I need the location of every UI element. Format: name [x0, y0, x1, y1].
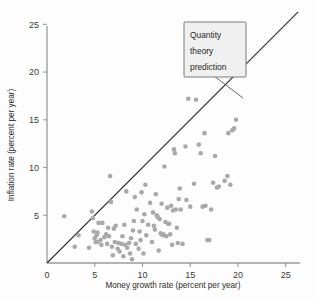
y-axis-title: Inflation rate (percent per year): [7, 89, 16, 202]
x-tick-label: 15: [185, 270, 195, 280]
y-tick-label: 25: [29, 20, 39, 30]
data-point: [177, 186, 182, 191]
data-point: [109, 200, 114, 205]
data-point: [120, 234, 125, 239]
data-point: [98, 238, 103, 243]
data-point: [140, 219, 145, 224]
data-point: [121, 254, 126, 259]
data-point: [159, 202, 164, 207]
data-point: [174, 207, 179, 212]
data-point: [222, 179, 227, 184]
data-point: [175, 225, 180, 230]
data-point: [117, 249, 122, 254]
data-point: [183, 144, 188, 149]
data-point: [169, 203, 174, 208]
y-tick-label: 20: [29, 67, 39, 77]
data-point: [146, 223, 151, 228]
x-tick-label: 0: [44, 270, 49, 280]
data-point: [112, 240, 117, 245]
data-point: [172, 147, 177, 152]
x-tick-label: 10: [137, 270, 147, 280]
data-point: [176, 197, 181, 202]
data-point: [106, 225, 111, 230]
data-point: [122, 223, 127, 228]
x-axis-ticks: 0510152025: [44, 263, 290, 280]
data-point: [148, 201, 153, 206]
data-point: [150, 240, 155, 245]
data-point: [138, 238, 143, 243]
data-point: [143, 182, 148, 187]
data-point: [186, 96, 191, 101]
data-point: [113, 223, 118, 228]
x-axis-title: Money growth rate (percent per year): [105, 281, 240, 290]
data-point: [127, 241, 132, 246]
data-point: [152, 223, 157, 228]
data-point: [213, 154, 218, 159]
quantity-theory-line: [47, 12, 298, 263]
data-point: [156, 248, 161, 253]
data-point: [124, 189, 129, 194]
annotation-line-1: Quantity: [190, 30, 222, 40]
annotation-leader-line: [214, 76, 243, 98]
data-point: [128, 251, 133, 256]
data-point: [228, 182, 233, 187]
data-point: [234, 117, 239, 122]
data-point: [76, 233, 81, 238]
data-point: [188, 204, 193, 209]
data-point: [91, 216, 96, 221]
data-point: [207, 238, 212, 243]
data-point: [142, 212, 147, 217]
data-point: [108, 174, 113, 179]
data-point: [132, 219, 137, 224]
data-point: [180, 242, 185, 247]
data-point: [91, 229, 96, 234]
data-point: [139, 190, 144, 195]
data-point: [194, 97, 199, 102]
data-point: [129, 236, 134, 241]
data-point: [87, 245, 92, 250]
data-point: [125, 245, 130, 250]
data-point: [62, 214, 67, 219]
scatter-plot-svg: 510152025 0510152025 Quantity theory pre…: [0, 0, 316, 299]
data-point: [173, 151, 178, 156]
data-point: [110, 244, 115, 249]
data-point: [209, 207, 214, 212]
data-point: [131, 228, 136, 233]
y-tick-label: 5: [34, 211, 39, 221]
data-point: [203, 203, 208, 208]
data-point: [134, 207, 139, 212]
data-points-group: [62, 96, 238, 261]
data-point: [217, 184, 222, 189]
data-point: [133, 242, 138, 247]
data-point: [192, 181, 197, 186]
data-point: [99, 243, 104, 248]
data-point: [141, 251, 146, 256]
annotation-group: Quantity theory prediction: [184, 22, 246, 98]
data-point: [211, 181, 216, 186]
x-tick-label: 20: [233, 270, 243, 280]
data-point: [144, 233, 149, 238]
data-point: [226, 131, 231, 136]
data-point: [162, 164, 167, 169]
data-point: [170, 243, 175, 248]
data-point: [157, 217, 162, 222]
y-axis-ticks: 510152025: [29, 20, 47, 221]
y-tick-label: 15: [29, 115, 39, 125]
data-point: [178, 207, 183, 212]
data-point: [151, 210, 156, 215]
data-point: [184, 198, 189, 203]
data-point: [137, 229, 142, 234]
chart-figure: 510152025 0510152025 Quantity theory pre…: [0, 0, 316, 299]
data-point: [100, 221, 105, 226]
data-point: [136, 246, 141, 251]
data-point: [175, 241, 180, 246]
data-point: [72, 244, 77, 249]
data-point: [167, 222, 172, 227]
data-point: [154, 192, 159, 197]
data-point: [133, 195, 138, 200]
data-point: [111, 253, 116, 258]
data-point: [198, 151, 203, 156]
data-point: [95, 230, 100, 235]
data-point: [130, 257, 135, 262]
data-point: [153, 227, 158, 232]
